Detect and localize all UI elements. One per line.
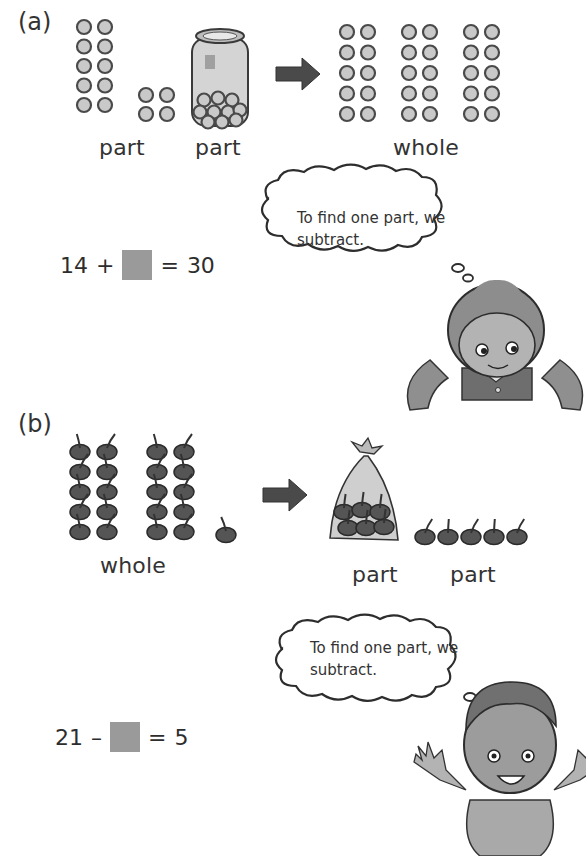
equation-a: 14 + = 30 [60,250,215,280]
marble-icon [423,66,437,80]
answer-blank-box[interactable] [122,250,152,280]
answer-blank-box[interactable] [110,722,140,752]
marbles-group-10 [77,20,112,112]
marble-icon [77,59,91,73]
marble-icon [340,46,354,60]
cherries-group-21 [70,434,236,543]
equation-result: 5 [174,725,188,750]
marble-icon [77,20,91,34]
jar-marbles [194,92,247,129]
marble-icon [423,107,437,121]
equation-operator: – [91,725,102,750]
arrow-right-icon [276,58,320,90]
marble-icon [77,40,91,54]
part-b-illustration [0,400,586,856]
marble-icon [98,59,112,73]
marbles-group-30 [340,25,499,121]
marble-icon [361,87,375,101]
part-a-illustration [0,0,586,400]
arrow-right-icon [263,479,307,511]
marble-icon [361,107,375,121]
thought-text-b: To find one part, we subtract. [310,637,458,681]
marble-icon [485,107,499,121]
caption-part-1: part [99,135,145,160]
marble-icon [464,66,478,80]
marble-icon [212,92,225,105]
marble-icon [340,107,354,121]
cherry-icon [461,519,481,545]
marble-icon [423,25,437,39]
equation-equals: = [160,253,178,278]
marble-icon [216,116,229,129]
marble-icon [98,98,112,112]
caption-whole: whole [100,553,166,578]
marble-icon [361,66,375,80]
marble-icon [340,87,354,101]
equation-left-operand: 21 [55,725,83,750]
equation-left-operand: 14 [60,253,88,278]
marble-icon [402,25,416,39]
marble-icon [98,20,112,34]
caption-whole: whole [393,135,459,160]
marble-icon [464,107,478,121]
boy-character-icon [414,682,586,856]
caption-part-2: part [195,135,241,160]
caption-part-2: part [450,562,496,587]
marble-icon [402,66,416,80]
marble-icon [361,46,375,60]
marble-icon [423,46,437,60]
marble-icon [485,46,499,60]
equation-equals: = [148,725,166,750]
thought-text-a: To find one part, we subtract. [297,207,445,251]
marble-icon [77,79,91,93]
marbles-group-4 [139,88,174,121]
thought-line-1: To find one part, we [297,207,445,229]
cherry-icon [484,519,504,545]
marble-icon [340,66,354,80]
marble-icon [160,88,174,102]
marble-icon [98,79,112,93]
equation-operator: + [96,253,114,278]
marble-icon [402,46,416,60]
marble-icon [464,25,478,39]
cherry-icon [216,517,236,543]
cherry-icon [97,434,117,460]
cherries-group-5 [415,519,527,545]
cherry-icon [438,519,458,545]
marble-icon [230,114,243,127]
marble-icon [98,40,112,54]
marble-icon [202,116,215,129]
caption-part-1: part [352,562,398,587]
marble-icon [160,107,174,121]
marble-icon [340,25,354,39]
cherry-icon [174,434,194,460]
cherry-icon [415,519,435,545]
thought-line-2: subtract. [297,229,445,251]
thought-line-1: To find one part, we [310,637,458,659]
marble-icon [423,87,437,101]
marble-icon [77,98,91,112]
marble-icon [139,88,153,102]
marble-icon [485,66,499,80]
marble-icon [361,25,375,39]
girl-character-icon [408,280,583,410]
bag-of-cherries-icon [330,438,398,540]
marble-icon [139,107,153,121]
equation-result: 30 [187,253,215,278]
marble-icon [402,87,416,101]
marble-icon [464,46,478,60]
marble-icon [464,87,478,101]
marble-icon [485,87,499,101]
thought-line-2: subtract. [310,659,458,681]
cherry-icon [507,519,527,545]
jar-icon [192,29,248,129]
marble-icon [402,107,416,121]
marble-icon [485,25,499,39]
equation-b: 21 – = 5 [55,722,188,752]
